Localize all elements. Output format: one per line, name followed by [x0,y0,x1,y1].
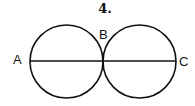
label-a: A [13,52,22,67]
label-b: B [99,27,108,42]
two-tangent-circles-diagram [0,0,195,106]
label-c: C [179,54,188,69]
